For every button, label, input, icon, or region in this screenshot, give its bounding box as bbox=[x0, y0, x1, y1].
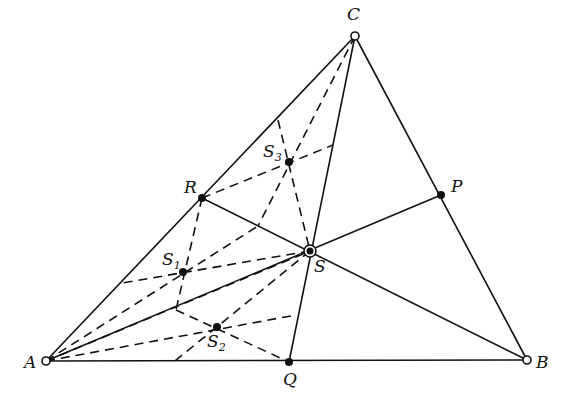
label-c: C bbox=[347, 4, 360, 24]
dash-s-s2 bbox=[175, 251, 310, 361]
point-s-marker bbox=[307, 248, 314, 255]
dashed-s3 bbox=[202, 36, 355, 251]
point-a-marker bbox=[42, 357, 50, 365]
label-s2: S2 bbox=[207, 331, 226, 354]
point-s3-marker bbox=[285, 158, 293, 166]
point-b-marker bbox=[523, 356, 531, 364]
label-b: B bbox=[535, 352, 549, 372]
label-s1: S1 bbox=[162, 249, 181, 272]
cevian-br bbox=[202, 198, 527, 360]
dash-q-s2 bbox=[176, 310, 289, 362]
label-r: R bbox=[183, 177, 197, 197]
point-p-marker bbox=[437, 191, 445, 199]
dash-s-s1 bbox=[122, 251, 310, 283]
label-p: P bbox=[450, 176, 463, 196]
triangle-abc bbox=[46, 36, 527, 361]
cevians bbox=[46, 36, 527, 362]
dash-s-s3 bbox=[278, 120, 310, 251]
point-s2-marker bbox=[213, 323, 221, 331]
geometry-diagram: A B C P Q R S S1 S2 S3 bbox=[0, 0, 566, 401]
point-r-marker bbox=[198, 194, 206, 202]
point-c-marker bbox=[351, 32, 359, 40]
dash-r-s1 bbox=[176, 198, 202, 310]
label-s: S bbox=[314, 256, 326, 276]
label-q: Q bbox=[283, 369, 297, 389]
label-a: A bbox=[22, 352, 36, 372]
cevian-cq bbox=[289, 36, 355, 362]
label-s3: S3 bbox=[263, 141, 282, 164]
point-q-marker bbox=[285, 358, 293, 366]
dash-c-s3 bbox=[258, 36, 355, 226]
